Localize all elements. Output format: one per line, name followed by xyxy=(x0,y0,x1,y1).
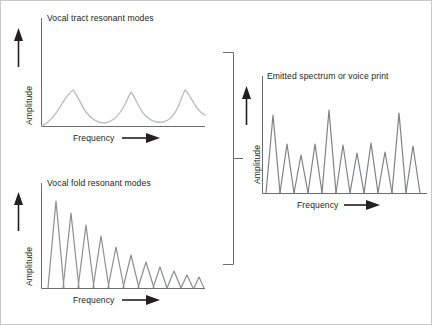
amplitude-arrow-icon xyxy=(14,192,23,231)
panel-vocal-fold: Vocal fold resonant modes Amplitude Freq… xyxy=(1,161,217,325)
vocal-tract-svg xyxy=(1,1,217,161)
vocal-fold-harmonic-spikes xyxy=(48,201,204,288)
amplitude-arrow-icon xyxy=(14,28,23,67)
figure-root: Vocal tract resonant modes Amplitude Fre… xyxy=(0,0,432,325)
vocal-tract-envelope-curve xyxy=(42,90,205,126)
frequency-arrow-icon xyxy=(122,133,160,143)
panel-vocal-fold-plot xyxy=(1,161,217,325)
frequency-arrow-icon xyxy=(122,295,160,305)
panel-vocal-tract-plot xyxy=(1,1,217,161)
emitted-spectrum-svg xyxy=(241,56,432,226)
panel-vocal-tract: Vocal tract resonant modes Amplitude Fre… xyxy=(1,1,217,161)
bracket-shape xyxy=(223,53,234,265)
amplitude-arrow-icon xyxy=(242,86,251,125)
frequency-arrow-icon xyxy=(344,200,380,210)
emitted-spectrum-harmonic-spikes xyxy=(266,110,420,193)
panel-emitted-spectrum: Emitted spectrum or voice print Amplitud… xyxy=(241,56,432,226)
vocal-fold-svg xyxy=(1,161,217,325)
panel-emitted-spectrum-plot xyxy=(241,56,432,226)
